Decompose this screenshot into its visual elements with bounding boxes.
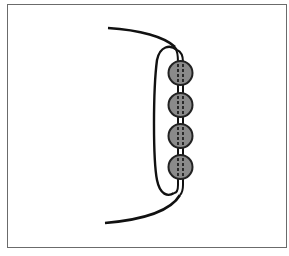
cord-top-end: [108, 28, 175, 47]
bead-4: [169, 155, 193, 179]
bead-cord-diagram: [0, 0, 289, 256]
bead-2: [169, 93, 193, 117]
bead-1: [169, 61, 193, 85]
beads: [169, 61, 193, 179]
bead-3: [169, 124, 193, 148]
cord-bottom-end: [105, 195, 180, 223]
